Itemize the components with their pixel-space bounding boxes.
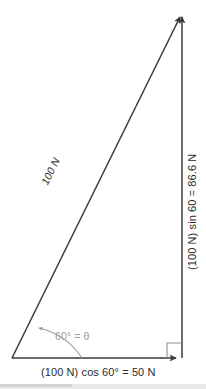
hypotenuse-vector-line	[12, 17, 180, 358]
right-angle-marker-icon	[167, 343, 182, 358]
vector-diagram: 100 N (100 N) sin 60 = 86.6 N (100 N) co…	[0, 0, 206, 389]
angle-label: 60° = θ	[55, 330, 89, 342]
bottom-edge-band-accent	[0, 384, 72, 387]
horizontal-component-label: (100 N) cos 60° = 50 N	[41, 366, 156, 378]
vertical-component-label: (100 N) sin 60 = 86.6 N	[186, 154, 198, 270]
triangle-graphic	[0, 0, 206, 389]
